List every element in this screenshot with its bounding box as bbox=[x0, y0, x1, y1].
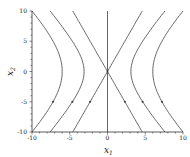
x-tick-label: -10 bbox=[27, 134, 37, 141]
y-tick-label: 5 bbox=[23, 37, 27, 44]
y-tick-label: 0 bbox=[23, 68, 27, 75]
trajectory-left-asymptote bbox=[73, 11, 108, 132]
flow-arrow-icon bbox=[161, 101, 163, 103]
y-tick-label: 10 bbox=[19, 7, 27, 14]
x-tick-label: 5 bbox=[143, 134, 147, 141]
trajectory-left-outer bbox=[32, 11, 62, 132]
flow-arrow-icon bbox=[52, 101, 54, 103]
trajectory-right-mid bbox=[131, 11, 165, 132]
x-tick-label: -5 bbox=[67, 134, 73, 141]
flow-arrow-icon bbox=[142, 101, 144, 103]
x-tick-label: 10 bbox=[179, 134, 187, 141]
x-tick-label: 0 bbox=[106, 134, 110, 141]
trajectory-right-outer bbox=[153, 11, 183, 132]
axis-ticks bbox=[30, 11, 184, 135]
x-axis-label: x1 bbox=[104, 145, 113, 156]
y-tick-label: -5 bbox=[21, 98, 27, 105]
y-tick-label: -10 bbox=[17, 128, 27, 135]
origin-point bbox=[107, 71, 109, 73]
y-axis-label: x2 bbox=[5, 67, 16, 76]
phase-portrait-chart: -10 -5 0 5 10 10 5 0 -5 -10 x1 x2 bbox=[0, 0, 190, 157]
flow-arrow-icon bbox=[124, 101, 126, 103]
flow-arrow-icon bbox=[71, 101, 73, 103]
trajectory-left-mid bbox=[50, 11, 84, 132]
flow-arrow-icon bbox=[89, 101, 91, 103]
trajectory-right-asymptote bbox=[108, 11, 143, 132]
